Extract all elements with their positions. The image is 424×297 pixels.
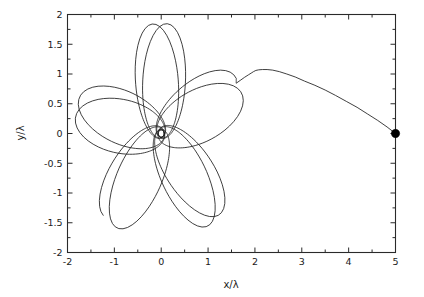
start-marker-dot — [391, 129, 399, 137]
y-tick-label: 1.5 — [47, 39, 62, 50]
x-tick-label: 0 — [158, 256, 164, 267]
y-tick-label: 2 — [56, 9, 62, 20]
plot-canvas: -2-1012345-2-1.5-1-0.500.511.52 x/λ y/λ — [0, 0, 424, 297]
y-tick-label: 0.5 — [47, 98, 62, 109]
x-axis-label: x/λ — [223, 279, 238, 290]
y-tick-label: -1.5 — [44, 217, 63, 228]
y-tick-label: -2 — [53, 247, 62, 258]
y-tick-label: -1 — [53, 187, 62, 198]
y-tick-label: -0.5 — [44, 158, 63, 169]
x-tick-label: 4 — [346, 256, 352, 267]
x-tick-label: 3 — [299, 256, 305, 267]
x-tick-label: 2 — [252, 256, 258, 267]
x-tick-label: -2 — [63, 256, 72, 267]
x-tick-label: 1 — [205, 256, 211, 267]
y-tick-label: 1 — [56, 68, 62, 79]
orbit-plot-figure: -2-1012345-2-1.5-1-0.500.511.52 x/λ y/λ — [0, 0, 424, 297]
y-axis-label: y/λ — [15, 125, 26, 140]
x-tick-label: -1 — [110, 256, 119, 267]
y-tick-label: 0 — [56, 128, 62, 139]
x-tick-label: 5 — [392, 256, 398, 267]
